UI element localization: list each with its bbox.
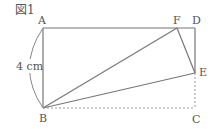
vertex-label-A: A — [37, 14, 47, 27]
vertex-label-E: E — [199, 66, 207, 79]
edge-BE — [43, 73, 195, 108]
edge-BF — [43, 28, 177, 108]
vertex-label-D: D — [192, 14, 201, 27]
edge-FE — [177, 28, 195, 73]
figure-title: 図1 — [15, 3, 35, 17]
dimension-label: 4 cm — [16, 60, 44, 73]
vertex-label-F: F — [173, 14, 181, 27]
vertex-label-C: C — [192, 113, 200, 126]
geometry-figure: 図1 4 cm A B C D E F — [0, 0, 218, 129]
vertex-label-B: B — [39, 112, 47, 125]
